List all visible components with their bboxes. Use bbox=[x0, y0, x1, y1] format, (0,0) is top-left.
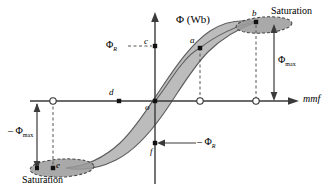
mmf-axis-arrow bbox=[288, 97, 299, 105]
point-marker-f bbox=[153, 141, 157, 145]
phi-r-negative-label: – ΦR bbox=[197, 137, 215, 149]
point-marker-d bbox=[117, 99, 121, 103]
neg-phi-r-pointer-arrow bbox=[157, 140, 165, 147]
phi-max-positive-subscript: max bbox=[285, 61, 295, 67]
phi-max-arrow-bottom bbox=[271, 92, 278, 101]
hysteresis-loop-svg bbox=[0, 0, 331, 195]
open-marker-hmax bbox=[253, 98, 259, 104]
phi-r-positive-label: ΦR bbox=[106, 40, 117, 52]
phi-max-negative-label: – Φmax bbox=[8, 126, 33, 138]
saturation-label-bottom: Saturation bbox=[22, 175, 63, 185]
phi-r-positive-subscript: R bbox=[113, 46, 117, 52]
hysteresis-loop-shaded-area bbox=[66, 21, 256, 169]
point-label-b: b bbox=[252, 9, 257, 18]
point-label-c: c bbox=[144, 37, 148, 46]
open-marker-a-projection bbox=[197, 98, 203, 104]
mmf-axis-label: mmf bbox=[303, 94, 320, 104]
point-marker-b bbox=[254, 20, 258, 24]
phi-max-positive-label: Φmax bbox=[278, 55, 296, 67]
point-label-d: d bbox=[109, 88, 114, 97]
flux-axis-arrow bbox=[151, 12, 159, 22]
flux-axis-label: Φ (Wb) bbox=[176, 14, 210, 25]
point-marker-neg-sat bbox=[35, 166, 39, 170]
phi-max-negative-subscript: max bbox=[23, 132, 33, 138]
open-marker-neg-hmax bbox=[50, 98, 56, 104]
phi-r-negative-subscript: R bbox=[212, 143, 216, 149]
point-marker-a bbox=[198, 46, 202, 50]
hysteresis-loop-figure: Φ (Wb) mmf o a b c d e f ΦR – ΦR Φmax – … bbox=[0, 0, 331, 195]
point-label-a: a bbox=[190, 36, 195, 45]
point-label-f: f bbox=[150, 147, 153, 156]
saturation-ellipse-top bbox=[236, 15, 293, 35]
neg-phi-max-arrow-top bbox=[34, 103, 41, 112]
saturation-label-top: Saturation bbox=[271, 6, 312, 16]
point-marker-o bbox=[153, 99, 157, 103]
point-marker-c bbox=[153, 44, 157, 48]
point-marker-e bbox=[51, 166, 55, 170]
point-label-e: e bbox=[56, 161, 60, 170]
origin-label: o bbox=[145, 103, 150, 112]
